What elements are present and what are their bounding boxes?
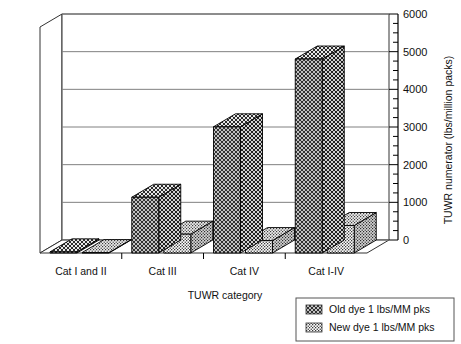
legend-label-new-dye: New dye 1 lbs/MM pks — [329, 321, 435, 333]
y-tick-label: 4000 — [403, 83, 427, 95]
bar-front-face — [214, 127, 241, 253]
legend: Old dye 1 lbs/MM pks New dye 1 lbs/MM pk… — [296, 298, 454, 341]
y-tick-label: 3000 — [403, 121, 427, 133]
y-tick-label: 0 — [403, 234, 409, 246]
y-tick-label: 1000 — [403, 196, 427, 208]
x-category-label: Cat I and II — [55, 265, 106, 277]
chart-container: 0100020003000400050006000 Cat I and IICa… — [0, 0, 461, 344]
legend-swatch-old-dye — [306, 305, 322, 314]
bar-old-dye — [214, 114, 263, 253]
bar-side-face — [241, 114, 263, 253]
bar-front-face — [50, 252, 77, 253]
x-axis-title: TUWR category — [188, 289, 263, 301]
y-tick-label: 6000 — [403, 8, 427, 20]
bar-front-face — [132, 197, 159, 253]
bar-old-dye — [295, 46, 344, 253]
y-tick-label: 2000 — [403, 159, 427, 171]
x-category-label: Cat I-IV — [308, 265, 344, 277]
x-category-label: Cat IV — [230, 265, 259, 277]
bar-old-dye — [132, 184, 181, 253]
bar-side-face — [322, 46, 344, 253]
y-tick-label: 5000 — [403, 46, 427, 58]
bar-front-face — [295, 59, 322, 253]
bar-chart-3d: 0100020003000400050006000 Cat I and IICa… — [0, 0, 461, 344]
legend-label-old-dye: Old dye 1 lbs/MM pks — [329, 303, 430, 315]
legend-swatch-new-dye — [306, 323, 322, 332]
y-axis-title: TUWR numerator (lbs/million packs) — [442, 56, 454, 225]
x-category-label: Cat III — [149, 265, 177, 277]
